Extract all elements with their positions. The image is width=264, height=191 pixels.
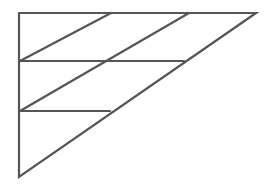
diagram-canvas (0, 0, 264, 191)
triangle-diagram (0, 0, 264, 191)
diagonal-line-short (20, 13, 111, 61)
outer-triangle (19, 13, 256, 177)
